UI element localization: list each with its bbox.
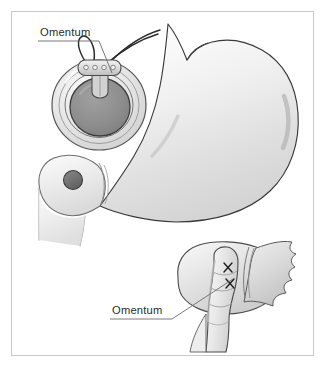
buckle-stud-3 — [102, 65, 107, 70]
buckle-stud-2 — [93, 65, 98, 70]
illustration-canvas: Omentum Omentum — [0, 0, 327, 370]
label-omentum-bottom: Omentum — [112, 304, 163, 316]
buckle-stud-4 — [111, 65, 116, 70]
access-port — [64, 171, 83, 190]
label-omentum-top: Omentum — [40, 26, 91, 38]
figure-root: Omentum Omentum — [0, 0, 327, 370]
buckle-stud-1 — [84, 65, 89, 70]
